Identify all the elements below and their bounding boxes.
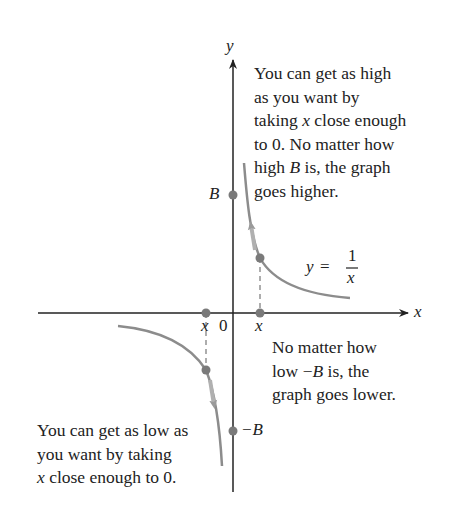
annotation-middle: No matter how low −B is, the graph goes … (272, 336, 396, 407)
arrow-up-icon (251, 225, 255, 250)
function-lhs: y (306, 257, 314, 277)
annotation-top: You can get as high as you want by takin… (254, 62, 406, 203)
point-B (229, 191, 238, 200)
function-eq: = (320, 257, 330, 277)
x-positive-label: x (255, 316, 263, 336)
y-axis-label: y (226, 36, 234, 56)
origin-label: 0 (219, 316, 228, 336)
annotation-top-line: as you want by (254, 86, 406, 110)
annotation-top-line: high B is, the graph (254, 156, 406, 180)
annotation-bottom: You can get as low as you want by taking… (37, 419, 188, 490)
annotation-bottom-line: x close enough to 0. (37, 466, 188, 490)
function-numerator: 1 (348, 246, 357, 266)
annotation-bottom-line: you want by taking (37, 443, 188, 467)
B-label: B (209, 184, 219, 204)
annotation-bottom-line: You can get as low as (37, 419, 188, 443)
x-axis-label: x (414, 302, 422, 322)
arrow-down-icon (210, 380, 214, 405)
annotation-top-line: You can get as high (254, 62, 406, 86)
annotation-middle-line: low −B is, the (272, 360, 396, 384)
x-negative-label: x (201, 316, 209, 336)
annotation-top-line: to 0. No matter how (254, 133, 406, 157)
annotation-middle-line: No matter how (272, 336, 396, 360)
annotation-top-line: goes higher. (254, 180, 406, 204)
function-denominator: x (347, 268, 355, 288)
neg-B-label: −B (241, 420, 263, 440)
point-curve-lower (202, 366, 211, 375)
annotation-middle-line: graph goes lower. (272, 383, 396, 407)
point-curve-upper (256, 254, 265, 263)
annotation-top-line: taking x close enough (254, 109, 406, 133)
point-neg-B (229, 427, 238, 436)
